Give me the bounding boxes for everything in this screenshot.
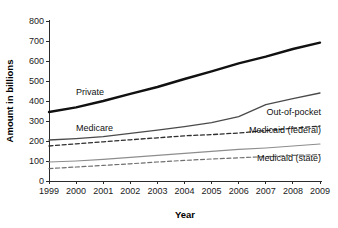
- x-tick-label: 2001: [93, 186, 113, 196]
- y-axis: 0100200300400500600700800: [29, 16, 49, 186]
- x-tick-label: 2007: [256, 186, 276, 196]
- x-tick-label: 2002: [120, 186, 140, 196]
- x-tick-label: 2004: [174, 186, 194, 196]
- y-tick-label: 400: [29, 96, 44, 106]
- y-tick-label: 600: [29, 56, 44, 66]
- x-tick-label: 2005: [202, 186, 222, 196]
- x-axis: 1999200020012002200320042005200620072008…: [39, 181, 330, 196]
- x-tick-label: 2003: [147, 186, 167, 196]
- y-axis-title: Amount in billions: [4, 60, 15, 143]
- y-tick-label: 500: [29, 76, 44, 86]
- line-chart: 0100200300400500600700800 19992000200120…: [0, 0, 338, 228]
- data-series-group: [49, 43, 320, 169]
- series-label-medicare: Medicare: [76, 123, 113, 133]
- x-tick-label: 2000: [66, 186, 86, 196]
- y-tick-label: 300: [29, 116, 44, 126]
- y-tick-label: 200: [29, 136, 44, 146]
- y-tick-label: 800: [29, 16, 44, 26]
- series-label-medicaid-state: Medicaid (state): [257, 153, 321, 163]
- x-tick-label: 2008: [283, 186, 303, 196]
- series-label-private: Private: [76, 87, 104, 97]
- x-tick-label: 2009: [310, 186, 330, 196]
- x-tick-label: 1999: [39, 186, 59, 196]
- series-label-out-of-pocket: Out-of-pocket: [266, 107, 321, 117]
- y-tick-label: 0: [39, 176, 44, 186]
- y-tick-label: 100: [29, 156, 44, 166]
- series-label-medicaid-federal: Medicaid (federal): [249, 125, 321, 135]
- y-tick-label: 700: [29, 36, 44, 46]
- chart-figure: 0100200300400500600700800 19992000200120…: [0, 0, 338, 228]
- x-axis-title: Year: [175, 209, 195, 220]
- x-tick-label: 2006: [229, 186, 249, 196]
